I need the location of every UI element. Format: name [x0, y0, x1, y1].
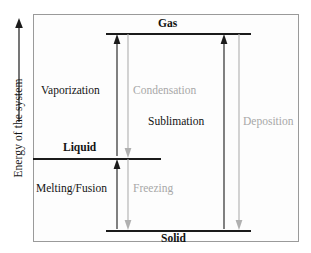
- phase-transition-energy-diagram: Energy of the system Gas Liquid Solid: [0, 0, 311, 253]
- transition-label-freezing: Freezing: [133, 182, 173, 194]
- energy-axis-label: Energy of the system: [12, 58, 24, 198]
- phase-label-gas: Gas: [158, 17, 177, 29]
- phase-level-line-gas: [106, 33, 251, 35]
- energy-axis: Energy of the system: [0, 0, 33, 253]
- transition-label-condensation: Condensation: [133, 84, 196, 96]
- phase-label-liquid: Liquid: [63, 141, 96, 153]
- transition-label-vaporization: Vaporization: [41, 84, 100, 96]
- transition-label-melting-fusion: Melting/Fusion: [36, 182, 107, 194]
- transition-label-sublimation: Sublimation: [148, 115, 204, 127]
- phase-level-line-liquid: [33, 158, 161, 160]
- transition-label-deposition: Deposition: [243, 115, 293, 127]
- diagram-plot-frame: [33, 14, 299, 242]
- phase-label-solid: Solid: [161, 232, 186, 244]
